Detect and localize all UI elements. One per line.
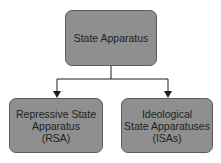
node-label: State Apparatus: [74, 32, 149, 44]
node-ideological-state-apparatuses: Ideological State Apparatuses (ISAs): [121, 98, 213, 153]
arrow-down-icon: [164, 91, 172, 98]
node-label-line: Ideological: [124, 108, 210, 120]
node-label-line: State Apparatuses: [124, 120, 210, 132]
node-label-line: Apparatus: [16, 120, 96, 132]
node-state-apparatus: State Apparatus: [65, 10, 157, 66]
node-label-line: Repressive State: [16, 108, 96, 120]
node-label-line: (RSA): [16, 132, 96, 144]
arrow-down-icon: [53, 91, 61, 98]
node-label-line: (ISAs): [124, 132, 210, 144]
node-repressive-state-apparatus: Repressive State Apparatus (RSA): [9, 98, 103, 153]
